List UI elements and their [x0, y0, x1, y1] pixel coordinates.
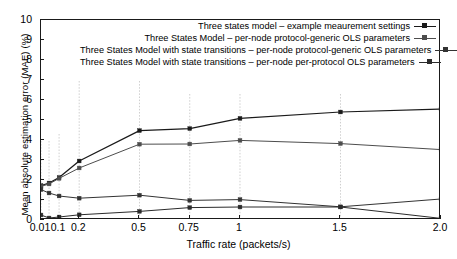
series-marker-0 [238, 117, 242, 121]
y-tick-mark [40, 199, 44, 200]
series-marker-0 [188, 127, 192, 131]
legend-item[interactable]: Three States Model – per-node protocol-g… [80, 33, 436, 44]
x-tick-label: 2.0 [433, 221, 448, 233]
y-tick-label: 3 [26, 154, 32, 165]
x-tick-label: 1.5 [332, 221, 347, 233]
series-marker-1 [339, 142, 343, 146]
y-tick-mark [40, 119, 44, 120]
x-tick-mark [189, 215, 190, 219]
series-marker-1 [77, 166, 81, 170]
x-tick-mark [138, 215, 139, 219]
x-axis-title: Traffic rate (packets/s) [187, 238, 291, 250]
series-marker-0 [439, 107, 440, 111]
x-tick-label: 0.01 [30, 221, 50, 233]
y-tick-mark [40, 99, 44, 100]
x-axis-title-wrapper: Traffic rate (packets/s) [0, 238, 447, 250]
y-tick-label: 5 [26, 114, 32, 125]
series-marker-1 [47, 182, 51, 186]
series-marker-2 [138, 193, 142, 197]
series-marker-2 [47, 191, 51, 195]
series-marker-1 [238, 139, 242, 143]
y-tick-label: 2 [26, 174, 32, 185]
x-tick-mark [78, 215, 79, 219]
legend-label: Three States Model – per-node protocol-g… [144, 33, 410, 43]
x-tick-mark [239, 215, 240, 219]
series-marker-3 [138, 210, 142, 214]
legend-key-icon [435, 46, 436, 55]
series-marker-3 [339, 205, 343, 209]
y-tick-mark [40, 139, 44, 140]
x-tick-label: 0.5 [131, 221, 146, 233]
y-tick-mark [40, 219, 44, 220]
series-marker-1 [57, 177, 61, 181]
y-tick-label: 8 [26, 54, 32, 65]
y-tick-mark [40, 159, 44, 160]
series-line-1 [41, 140, 440, 186]
series-marker-1 [188, 142, 192, 146]
legend-label: Three states model – example meaurement … [198, 21, 410, 31]
series-marker-2 [57, 194, 61, 198]
legend: Three states model – example meaurement … [80, 21, 436, 69]
series-marker-3 [47, 216, 51, 219]
legend-item[interactable]: Three states model – example meaurement … [80, 21, 436, 32]
series-marker-1 [138, 142, 142, 146]
x-tick-label: 0.1 [51, 221, 66, 233]
y-tick-label: 7 [26, 74, 32, 85]
y-tick-mark [40, 19, 44, 20]
y-tick-label: 10 [20, 14, 32, 25]
series-marker-1 [439, 148, 440, 152]
legend-item[interactable]: Three States Model with state transition… [80, 45, 436, 56]
x-tick-mark [440, 215, 441, 219]
legend-label: Three States Model with state transition… [80, 57, 415, 67]
series-marker-2 [188, 199, 192, 203]
y-tick-mark [40, 79, 44, 80]
x-tick-label: 0.75 [179, 221, 199, 233]
series-marker-2 [439, 197, 440, 201]
x-tick-label: 1 [236, 221, 242, 233]
series-marker-3 [188, 206, 192, 210]
legend-key-icon [414, 22, 436, 31]
series-marker-0 [77, 159, 81, 163]
series-marker-0 [339, 110, 343, 114]
legend-item[interactable]: Three States Model with state transition… [80, 57, 436, 68]
legend-label: Three States Model with state transition… [80, 45, 431, 55]
x-axis-tick-labels: 0.010.10.20.50.7511.52.0 [0, 221, 447, 235]
x-tick-mark [339, 215, 340, 219]
series-marker-0 [138, 129, 142, 133]
y-tick-mark [40, 179, 44, 180]
y-tick-mark [40, 39, 44, 40]
x-tick-mark [58, 215, 59, 219]
series-marker-3 [238, 205, 242, 209]
series-marker-2 [77, 196, 81, 200]
series-marker-3 [41, 213, 43, 217]
y-tick-label: 6 [26, 94, 32, 105]
legend-key-icon [419, 58, 437, 67]
legend-key-icon [414, 34, 436, 43]
x-tick-label: 0.2 [71, 221, 86, 233]
y-tick-label: 1 [26, 194, 32, 205]
y-tick-label: 4 [26, 134, 32, 145]
series-marker-2 [41, 188, 43, 192]
x-tick-mark [40, 215, 41, 219]
series-marker-2 [238, 198, 242, 202]
y-tick-mark [40, 59, 44, 60]
y-tick-label: 9 [26, 34, 32, 45]
